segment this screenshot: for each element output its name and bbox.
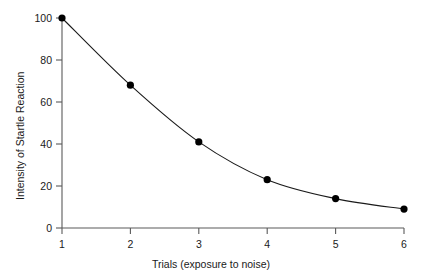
x-tick-label: 2 [127, 239, 133, 250]
series-line [62, 18, 404, 209]
x-axis-ticks [62, 228, 404, 234]
data-point-marker [264, 176, 271, 183]
y-tick-label: 100 [20, 13, 52, 24]
y-tick-label: 80 [20, 55, 52, 66]
x-tick-label: 1 [59, 239, 65, 250]
y-axis-ticks [56, 18, 62, 228]
startle-reaction-line-chart: 020406080100 123456 Trials (exposure to … [0, 0, 422, 278]
series-markers [58, 14, 407, 212]
data-point-marker [195, 138, 202, 145]
x-tick-label: 5 [333, 239, 339, 250]
x-tick-label: 6 [401, 239, 407, 250]
x-tick-label: 4 [264, 239, 270, 250]
data-point-marker [58, 14, 65, 21]
x-tick-label: 3 [196, 239, 202, 250]
data-point-marker [332, 195, 339, 202]
plot-area [0, 0, 422, 278]
y-axis-title: Intensity of Startle Reaction [14, 72, 26, 200]
x-axis-title: Trials (exposure to noise) [0, 258, 422, 270]
y-tick-label: 0 [20, 223, 52, 234]
data-point-marker [400, 206, 407, 213]
data-point-marker [127, 82, 134, 89]
